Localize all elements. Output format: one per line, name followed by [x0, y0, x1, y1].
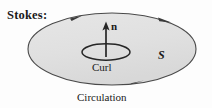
normal-vector-label: n: [111, 21, 117, 32]
surface-label: S: [158, 49, 165, 61]
circulation-label: Circulation: [77, 92, 127, 103]
stokes-title-label: Stokes:: [7, 9, 47, 22]
curl-label: Curl: [92, 62, 112, 73]
stokes-theorem-figure: Stokes: n Curl S Circulation: [0, 0, 212, 108]
